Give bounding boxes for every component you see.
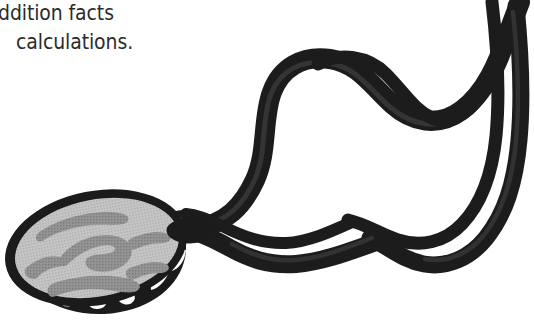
cord-loop-group xyxy=(196,2,520,228)
medallion-group xyxy=(0,174,213,321)
text-line-calculations: calculations. xyxy=(16,27,133,57)
cord-descending-group xyxy=(348,2,521,265)
text-line-addition-facts: ddition facts xyxy=(0,0,114,28)
page-canvas: ddition facts calculations. xyxy=(0,0,534,329)
cord-strand-inner xyxy=(318,2,516,120)
